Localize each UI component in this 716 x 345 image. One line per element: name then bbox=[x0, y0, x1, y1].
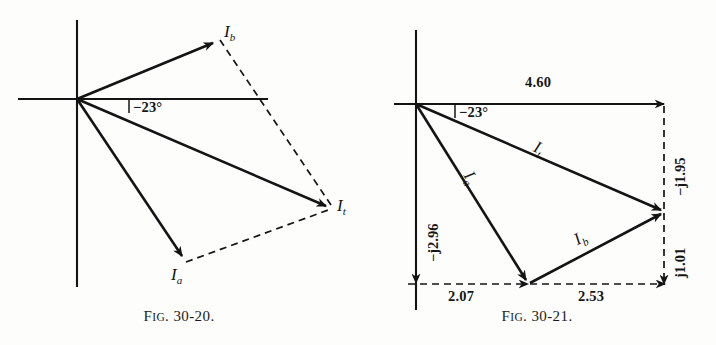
phasor-label-ia: Ia bbox=[171, 266, 182, 286]
dimension-label-j1-01-text: j1.01 bbox=[672, 248, 688, 278]
dimension-label-minus-j1-95: −j1.95 bbox=[673, 158, 688, 196]
phasor-ib bbox=[530, 214, 661, 283]
phasor-it bbox=[77, 99, 326, 206]
phasor-label-it-sub: t bbox=[343, 205, 346, 217]
dimension-label-minus-j2-96: −j2.96 bbox=[426, 224, 441, 262]
phasor-label-ib-sub: b bbox=[230, 31, 236, 43]
dashed-ib-to-it bbox=[220, 40, 331, 205]
caption-prefix: F bbox=[501, 308, 510, 324]
dashed-ia-to-it bbox=[186, 209, 331, 262]
dimension-label-2-53: 2.53 bbox=[578, 289, 604, 304]
caption-rest: . 30-20. bbox=[165, 308, 214, 324]
dimension-label-2-07: 2.07 bbox=[448, 289, 474, 304]
figure-30-21: −23° 4.60 2.07 2.53 −j2.96 −j1.95 j1.01 … bbox=[358, 0, 716, 345]
dimension-label-minus-j2-96-text: −j2.96 bbox=[425, 224, 441, 262]
figure-caption-30-21: FIG. 30-21. bbox=[358, 308, 716, 325]
phasor-ib bbox=[77, 43, 213, 99]
caption-smallcaps: IG bbox=[152, 311, 165, 323]
figure-30-20: −23° Ib Ia It FIG. 30-20. bbox=[0, 0, 358, 345]
phasor-label-ib: Ib bbox=[224, 23, 235, 43]
angle-label-30-20: −23° bbox=[133, 100, 162, 115]
figure-30-20-drawing bbox=[0, 0, 358, 345]
phasor-label-ia-sub: a bbox=[177, 274, 183, 286]
angle-label-30-21: −23° bbox=[459, 105, 488, 120]
caption-smallcaps: IG bbox=[510, 311, 523, 323]
figure-30-21-drawing bbox=[358, 0, 716, 345]
caption-rest: . 30-21. bbox=[523, 308, 572, 324]
caption-prefix: F bbox=[143, 308, 152, 324]
phasor-label-it: It bbox=[337, 197, 346, 217]
dimension-label-4-60: 4.60 bbox=[525, 75, 551, 90]
dimension-label-j1-01: j1.01 bbox=[673, 248, 688, 278]
dimension-label-minus-j1-95-text: −j1.95 bbox=[672, 158, 688, 196]
figure-page: −23° Ib Ia It FIG. 30-20. bbox=[0, 0, 716, 345]
figure-caption-30-20: FIG. 30-20. bbox=[0, 308, 358, 325]
